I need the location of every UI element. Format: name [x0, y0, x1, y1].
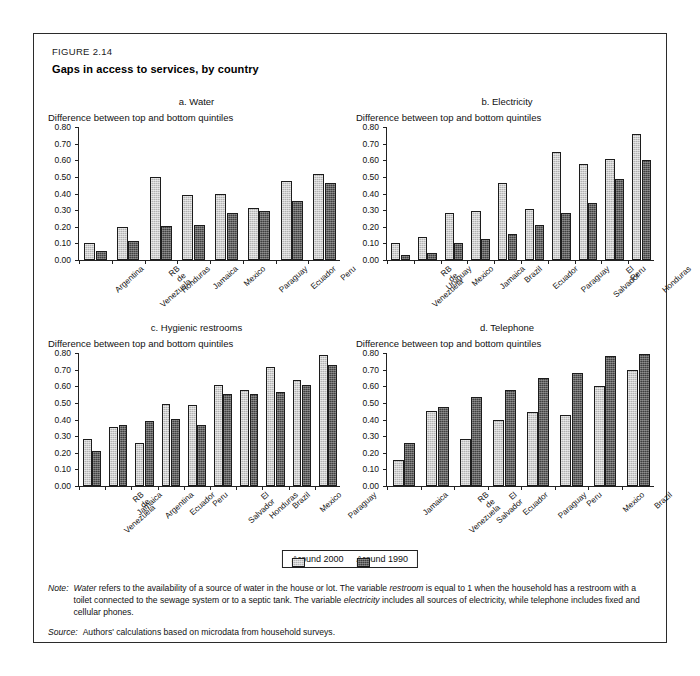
- x-tick-mark: [243, 260, 244, 264]
- note-text: Water refers to the availability of a so…: [74, 582, 654, 619]
- bar-group-mexico: [588, 353, 622, 486]
- bar-jamaica-around-1990: [119, 425, 128, 486]
- bar-brazil-around-1990: [639, 354, 650, 486]
- x-tick-mark: [494, 260, 495, 264]
- bar-rb-de-venezuela-around-2000: [83, 439, 92, 486]
- x-tick-mark: [112, 260, 113, 264]
- panel-axis-label-a: Difference between top and bottom quinti…: [48, 112, 349, 125]
- y-tick-label: 0.20: [54, 448, 71, 458]
- bar-group-jamaica: [177, 127, 210, 260]
- y-tick-label: 0.70: [362, 365, 379, 375]
- bar-group-peru: [601, 127, 628, 260]
- y-tick-label: 0.60: [54, 155, 71, 165]
- figure-title: Gaps in access to services, by country: [52, 63, 612, 75]
- bar-honduras-around-2000: [150, 177, 161, 260]
- x-tick-mark: [387, 260, 388, 264]
- y-tick-label: 0.30: [54, 431, 71, 441]
- bar-jamaica-around-1990: [194, 225, 205, 260]
- bar-mexico-around-2000: [594, 386, 605, 486]
- x-tick-mark: [210, 260, 211, 264]
- x-tick-mark: [588, 486, 589, 490]
- y-tick-label: 0.80: [54, 348, 71, 358]
- x-axis-label-argentina: Argentina: [114, 265, 146, 295]
- x-tick-mark: [184, 486, 185, 490]
- y-tick-label: 0.50: [362, 172, 379, 182]
- bar-ecuador-around-1990: [535, 225, 544, 260]
- bar-jamaica-around-1990: [481, 239, 490, 260]
- y-tick-label: 0.00: [54, 255, 71, 265]
- bar-peru-around-2000: [560, 415, 571, 486]
- note-term-electricity: electricity: [344, 595, 380, 605]
- figure-number: FIGURE 2.14: [52, 46, 612, 57]
- bar-mexico-around-2000: [293, 380, 302, 486]
- x-tick-mark: [145, 260, 146, 264]
- bar-paraguay-around-2000: [527, 412, 538, 486]
- bar-group-peru: [555, 353, 589, 486]
- bar-peru-around-2000: [605, 159, 614, 260]
- chart-panel-telephone: d. TelephoneDifference between top and b…: [352, 322, 662, 547]
- legend-item-around-1990: Around 1990: [357, 554, 409, 564]
- figure-header: FIGURE 2.14 Gaps in access to services, …: [52, 46, 612, 75]
- x-axis-label-jamaica: Jamaica: [211, 265, 239, 292]
- x-tick-mark: [488, 486, 489, 490]
- y-tick-label: 0.10: [54, 464, 71, 474]
- bar-jamaica-around-2000: [182, 195, 193, 260]
- x-axis-label-brazil: Brazil: [654, 491, 675, 511]
- bar-rb-de-venezuela-around-1990: [401, 255, 410, 260]
- bar-uruguay-around-2000: [418, 237, 427, 260]
- x-axis-line-c: [78, 486, 340, 487]
- source-text: Authors' calculations based on microdata…: [83, 626, 654, 638]
- bar-honduras-around-1990: [250, 394, 259, 486]
- y-tick-label: 0.50: [54, 172, 71, 182]
- bar-group-paraguay: [243, 127, 276, 260]
- y-tick-label: 0.80: [362, 122, 379, 132]
- panel-title-d: d. Telephone: [352, 322, 662, 334]
- bar-group-rb-de-venezuela: [387, 127, 414, 260]
- y-tick-label: 0.10: [362, 464, 379, 474]
- panel-title-c: c. Hygienic restrooms: [44, 322, 349, 334]
- bar-argentina-around-2000: [135, 443, 144, 486]
- x-axis-label-jamaica: Jamaica: [422, 491, 450, 518]
- bar-peru-around-2000: [188, 405, 197, 486]
- bar-mexico-around-2000: [445, 213, 454, 260]
- x-tick-mark: [177, 260, 178, 264]
- chart-panel-water: a. WaterDifference between top and botto…: [44, 96, 349, 321]
- bar-ecuador-around-1990: [505, 390, 516, 486]
- bar-group-paraguay: [521, 353, 555, 486]
- x-axis-labels-a: ArgentinaRBdeVenezuelaHondurasJamaicaMex…: [79, 265, 341, 327]
- bar-rb-de-venezuela-around-1990: [92, 451, 101, 486]
- x-tick-mark: [289, 486, 290, 490]
- bar-el-salvador-around-2000: [214, 385, 223, 486]
- plot-area-b: 0.000.100.200.300.400.500.600.700.80RBde…: [356, 127, 658, 277]
- bar-argentina-around-2000: [84, 243, 95, 260]
- y-tick-label: 0.20: [362, 222, 379, 232]
- y-tick-label: 0.30: [362, 431, 379, 441]
- x-axis-label-ecuador: Ecuador: [522, 491, 550, 518]
- bar-group-rb-de-venezuela: [421, 353, 455, 486]
- y-tick-label: 0.40: [54, 189, 71, 199]
- chart-panel-electricity: b. ElectricityDifference between top and…: [352, 96, 662, 321]
- bar-el-salvador-around-2000: [460, 439, 471, 486]
- bar-group-ecuador: [488, 353, 522, 486]
- bar-group-jamaica: [467, 127, 494, 260]
- y-tick-label: 0.40: [362, 415, 379, 425]
- y-axis-b: 0.000.100.200.300.400.500.600.700.80: [356, 127, 382, 260]
- bar-brazil-around-1990: [276, 392, 285, 486]
- x-axis-line-a: [78, 260, 340, 261]
- x-tick-mark: [105, 486, 106, 490]
- bar-group-honduras: [236, 353, 262, 486]
- bar-uruguay-around-1990: [427, 253, 436, 260]
- bar-group-paraguay: [548, 127, 575, 260]
- note-seg-2: refers to the availability of a source o…: [96, 583, 389, 593]
- x-axis-label-mexico: Mexico: [318, 491, 343, 515]
- bar-honduras-around-1990: [642, 160, 651, 260]
- bar-group-peru: [308, 127, 341, 260]
- bar-rb-de-venezuela-around-2000: [117, 227, 128, 260]
- x-tick-mark: [575, 260, 576, 264]
- x-tick-mark: [79, 260, 80, 264]
- bar-el-salvador-around-1990: [223, 394, 232, 486]
- bar-paraguay-around-1990: [259, 211, 270, 260]
- bar-peru-around-1990: [572, 373, 583, 486]
- bar-rb-de-venezuela-around-1990: [128, 241, 139, 260]
- figure-frame: FIGURE 2.14 Gaps in access to services, …: [33, 33, 667, 643]
